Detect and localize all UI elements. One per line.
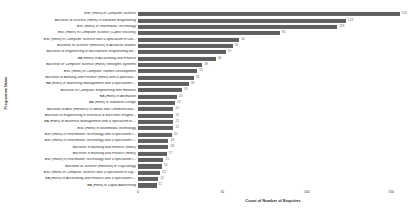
x-axis-tick: 0 — [137, 191, 139, 194]
bar-value-label: 46 — [218, 57, 222, 60]
bar-category-label: BSc (Hons) in Information Technology wit… — [12, 133, 138, 137]
bar-fill[interactable] — [138, 120, 173, 124]
x-axis-title: Count of Number of Enquiries — [138, 198, 408, 203]
bar-fill[interactable] — [138, 126, 173, 130]
bar-category-label: BSc (Hons) in Computer Science (Cyber Se… — [12, 31, 138, 35]
bar-category-label: BA (Hons) in Digital Advertising — [12, 184, 138, 188]
bar-value-label: 33 — [196, 76, 200, 79]
x-axis-tick: 150 — [388, 191, 394, 194]
bar-fill[interactable] — [138, 107, 173, 111]
bar-category-label: Bachelor of Science (Honours) in Actuari… — [12, 44, 138, 48]
bar-value-label: 17 — [169, 152, 173, 155]
bar-category-label: BA (Hons) in Business Management with a … — [12, 120, 138, 124]
bar-value-label: 56 — [235, 44, 239, 47]
bar-category-label: BA (Hons) in Accounting and Finance with… — [12, 177, 138, 181]
bar-value-label: 21 — [175, 114, 179, 117]
bar-category-label: Bachelor of Engineering in Mechatronic E… — [12, 50, 138, 54]
bar-fill[interactable] — [138, 82, 189, 86]
bar-value-label: 22 — [177, 101, 181, 104]
bar-fill[interactable] — [138, 171, 160, 175]
bar-fill[interactable] — [138, 25, 337, 29]
bar-fill[interactable] — [138, 31, 280, 35]
bar-value-label: 18 — [170, 146, 174, 149]
bar-track: 11 — [138, 182, 408, 188]
bar-category-label: BSc (Hons) in Computer Science — [12, 12, 138, 16]
bar-fill[interactable] — [138, 114, 173, 118]
bar-fill[interactable] — [138, 88, 182, 92]
bar-value-label: 12 — [160, 177, 164, 180]
bar-category-label: BA (Hons) in Animation — [12, 95, 138, 99]
bar-fill[interactable] — [138, 177, 158, 181]
bar-value-label: 52 — [228, 51, 232, 54]
bar-category-label: BSc (Hons) in Information Technology wit… — [12, 158, 138, 162]
x-axis-tick: 50 — [220, 191, 224, 194]
bar-fill[interactable] — [138, 69, 197, 73]
bar-value-label: 14 — [164, 165, 168, 168]
bar-category-label: BSc (Hons) in Computer Science with a sp… — [12, 171, 138, 175]
bar-value-label: 84 — [282, 32, 286, 35]
bar-value-label: 118 — [339, 25, 344, 28]
bar-category-label: BA (Hons) in Industrial Design — [12, 101, 138, 105]
bar-fill[interactable] — [138, 18, 346, 22]
plot-area: BSc (Hons) in Computer Science155Bachelo… — [12, 11, 408, 189]
bar-fill[interactable] — [138, 50, 226, 54]
bar-fill[interactable] — [138, 139, 168, 143]
bar-fill[interactable] — [138, 63, 202, 67]
bar-value-label: 23 — [179, 95, 183, 98]
bar-fill[interactable] — [138, 38, 239, 42]
bar-value-label: 18 — [170, 139, 174, 142]
y-axis-title: Programme Name — [0, 0, 12, 186]
bar-fill[interactable] — [138, 145, 168, 149]
bar-fill[interactable] — [138, 57, 216, 61]
bar-category-label: BSc (Hons) in Multimedia Technology — [12, 127, 138, 131]
bar-category-label: Bachelor in Banking and Finance (Hons) — [12, 146, 138, 150]
bar-value-label: 21 — [175, 127, 179, 130]
bar-value-label: 13 — [162, 171, 166, 174]
bar-category-label: Bachelor of Engineering in Electrical & … — [12, 114, 138, 118]
bar-value-label: 38 — [204, 63, 208, 66]
bar-value-label: 60 — [241, 38, 245, 41]
bar-fill[interactable] — [138, 158, 163, 162]
bar-fill[interactable] — [138, 44, 233, 48]
bar-value-label: 26 — [184, 89, 188, 92]
bar-value-label: 15 — [165, 158, 169, 161]
bar-category-label: Bachelor of Computer Engineering with Ho… — [12, 89, 138, 93]
bar-value-label: 155 — [402, 13, 408, 16]
bar-value-label: 21 — [175, 108, 179, 111]
bar-fill[interactable] — [138, 76, 194, 80]
bar-fill[interactable] — [138, 164, 162, 168]
bar-category-label: Bachelor of Science (Hons) in Software E… — [12, 19, 138, 23]
bar-category-label: Bachelor of Arts (Honours) in Media and … — [12, 108, 138, 112]
bar-category-label: Bachelor of Computer Science (Hons) Inte… — [12, 63, 138, 67]
bar-category-label: BSc (Hons) in Information Technology wit… — [12, 139, 138, 143]
bar-value-label: 20 — [174, 133, 178, 136]
bar-category-label: BSc (Hons) in Computer Science with a sp… — [12, 38, 138, 42]
bar-category-label: BSc (Hons) in Computer Games Development — [12, 70, 138, 74]
bar-value-label: 11 — [159, 184, 162, 187]
bar-fill[interactable] — [138, 133, 172, 137]
bar-category-label: BA (Hons) in Accounting and Finance — [12, 57, 138, 61]
bar-value-label: 35 — [199, 70, 203, 73]
bar-value-label: 30 — [191, 82, 195, 85]
bar-fill[interactable] — [138, 152, 167, 156]
bar-category-label: Bachelor in Banking and Finance (Hons) w… — [12, 76, 138, 80]
bar-row: BA (Hons) in Digital Advertising11 — [12, 182, 408, 188]
bar-category-label: Bachelor in Banking and Finance (Hons) — [12, 152, 138, 156]
bar-category-label: BSc (Hons) in Information Technology — [12, 25, 138, 29]
x-axis-tick: 100 — [304, 191, 310, 194]
bar-category-label: Bachelor of Science (Honours) in Psychol… — [12, 165, 138, 169]
bar-chart: Programme Name BSc (Hons) in Computer Sc… — [0, 0, 413, 215]
bar-value-label: 123 — [348, 19, 354, 22]
bar-value-label: 21 — [175, 120, 179, 123]
bar-fill[interactable] — [138, 183, 157, 187]
bar-fill[interactable] — [138, 95, 177, 99]
y-axis-title-text: Programme Name — [4, 77, 8, 110]
bar-category-label: BA (Hons) in Marketing Management with a… — [12, 82, 138, 86]
bar-fill[interactable] — [138, 12, 400, 16]
bar-fill[interactable] — [138, 101, 175, 105]
